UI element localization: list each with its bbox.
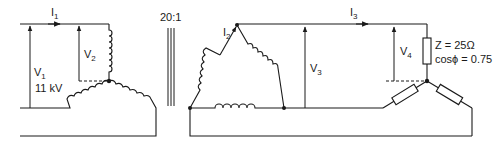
primary-coil-left bbox=[20, 80, 109, 108]
label-v1-value: 11 kV bbox=[35, 82, 63, 94]
label-i1: I1 bbox=[51, 6, 59, 21]
load-impedance-top bbox=[423, 38, 431, 64]
label-impedance: Z = 25Ω bbox=[435, 39, 475, 51]
delta-coil-bottom bbox=[190, 104, 284, 108]
label-turns-ratio: 20:1 bbox=[160, 11, 181, 23]
circuit-diagram: I1 V1 11 kV V2 20:1 I2 V3 I3 bbox=[0, 0, 503, 148]
secondary-line-bottom bbox=[190, 108, 472, 136]
delta-coil-right bbox=[237, 25, 284, 108]
label-power-factor: cosϕ = 0.75 bbox=[435, 53, 492, 65]
load-impedance-right bbox=[436, 84, 462, 104]
label-v4: V4 bbox=[400, 45, 412, 60]
label-i2: I2 bbox=[223, 26, 231, 41]
label-i3: I3 bbox=[350, 6, 358, 21]
load-impedance-left bbox=[392, 84, 418, 104]
transformer-core bbox=[168, 28, 174, 106]
secondary-winding-delta bbox=[188, 23, 286, 110]
primary-coil-vertical bbox=[109, 24, 112, 81]
delta-coil-left bbox=[190, 48, 220, 108]
label-v3: V3 bbox=[310, 62, 322, 77]
label-v2: V2 bbox=[84, 48, 96, 63]
label-v1: V1 bbox=[34, 66, 46, 81]
